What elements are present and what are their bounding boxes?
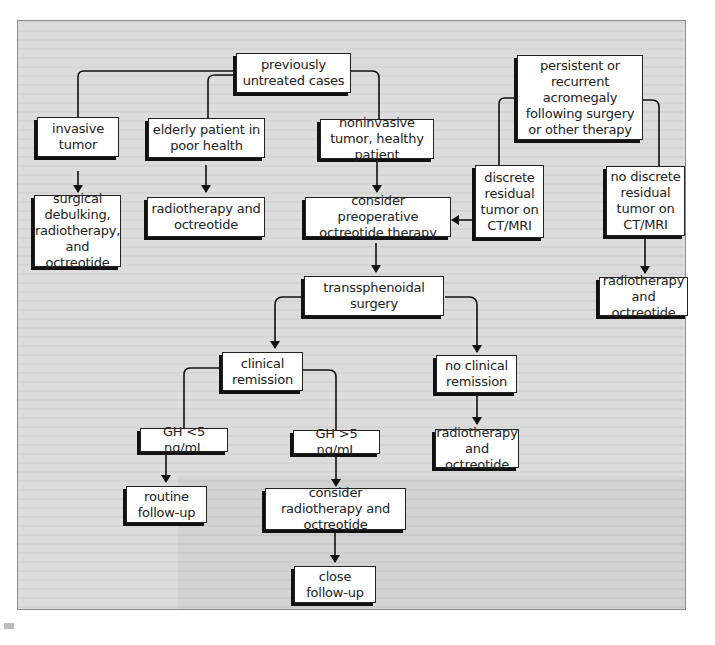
node-radiotherapy-octreotide-3: radiotherapy and octreotide	[435, 429, 519, 468]
node-radiotherapy-octreotide-1: radiotherapy and octreotide	[147, 197, 265, 237]
node-no-clinical-remission: no clinical remission	[436, 355, 517, 393]
node-consider-preoperative: consider preoperative octreotide therapy	[305, 197, 451, 237]
node-transsphenoidal-surgery: transsphenoidal surgery	[304, 276, 444, 316]
node-discrete-residual: discrete residual tumor on CT/MRI	[475, 165, 544, 238]
node-no-discrete-residual: no discrete residual tumor on CT/MRI	[606, 166, 685, 236]
node-invasive-tumor: invasive tumor	[37, 117, 119, 157]
node-elderly-patient: elderly patient in poor health	[148, 118, 265, 158]
node-gh-lt5: GH <5 ng/mL	[140, 428, 228, 452]
node-radiotherapy-octreotide-2: radiotherapy and octreotide	[599, 277, 688, 316]
node-consider-radiotherapy: consider radiotherapy and octreotide	[265, 488, 406, 530]
node-close-followup: close follow-up	[294, 566, 376, 603]
node-persistent-recurrent: persistent or recurrent acromegaly follo…	[517, 55, 643, 140]
node-routine-followup: routine follow-up	[126, 486, 207, 523]
node-gh-gt5: GH >5 ng/mL	[293, 430, 380, 454]
node-noninvasive-tumor: noninvasive tumor, healthy patient	[320, 119, 434, 159]
node-previously-untreated: previously untreated cases	[236, 53, 351, 93]
page-corner-mark	[4, 623, 14, 629]
node-surgical-debulking: surgical debulking, radiotherapy, and oc…	[34, 195, 121, 267]
node-clinical-remission: clinical remission	[222, 352, 303, 391]
